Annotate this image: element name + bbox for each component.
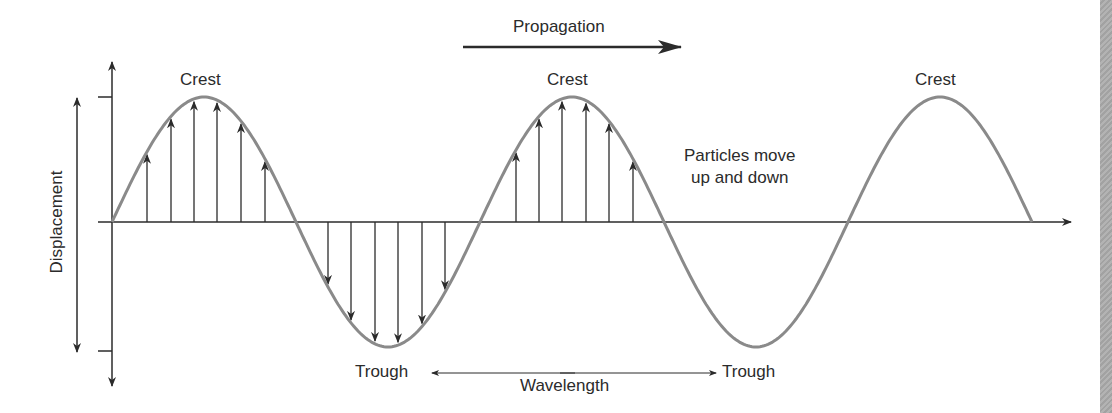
- particles-label: Particles move up and down: [684, 145, 795, 189]
- displacement-label: Displacement: [47, 171, 67, 274]
- crest-label-1: Crest: [180, 70, 221, 90]
- wave-diagram: Propagation Crest Crest Crest Particles …: [0, 0, 1112, 413]
- wave-graphic: [0, 0, 1112, 413]
- crest-label-2: Crest: [547, 70, 588, 90]
- trough-label-1: Trough: [355, 362, 408, 382]
- propagation-label: Propagation: [513, 17, 605, 37]
- wavelength-label: Wavelength: [520, 376, 609, 396]
- particles-line-1: Particles move: [684, 145, 795, 167]
- trough-label-2: Trough: [722, 362, 775, 382]
- crest-label-3: Crest: [915, 70, 956, 90]
- particles-line-2: up and down: [684, 167, 795, 189]
- page-edge-strip: [1100, 0, 1112, 413]
